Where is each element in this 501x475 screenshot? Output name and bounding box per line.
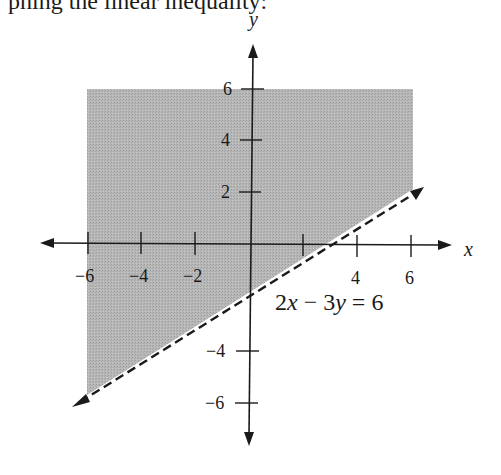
y-axis-up-arrow-icon: [248, 44, 258, 58]
equation-end: = 6: [346, 289, 384, 315]
y-axis-down-arrow-icon: [244, 432, 254, 446]
inequality-graph: y x −6 −4 −2 4 6 6 4 2 −4 −6 2x − 3y = 6: [0, 0, 501, 475]
equation-x-var: x: [286, 289, 298, 315]
y-tick-label-neg4: −4: [206, 341, 225, 361]
x-axis-left-arrow-icon: [40, 238, 54, 248]
equation-y-var: y: [333, 289, 346, 315]
equation-label: 2x − 3y = 6: [275, 289, 383, 315]
y-tick-label-2: 2: [221, 182, 230, 202]
x-tick-label-6: 6: [405, 268, 414, 288]
y-tick-label-neg6: −6: [205, 393, 224, 413]
y-axis-label: y: [247, 8, 258, 31]
x-axis-label: x: [463, 238, 473, 260]
y-tick-label-6: 6: [223, 79, 232, 99]
x-tick-label-4: 4: [351, 268, 360, 288]
equation-middle: − 3: [298, 289, 336, 315]
x-tick-label-neg6: −6: [75, 266, 94, 286]
y-tick-label-4: 4: [221, 130, 230, 150]
x-axis-right-arrow-icon: [438, 240, 452, 250]
equation-coef: 2: [275, 289, 287, 315]
x-tick-label-neg4: −4: [129, 266, 148, 286]
boundary-lower-arrow-icon: [72, 394, 90, 407]
x-tick-label-neg2: −2: [183, 266, 202, 286]
